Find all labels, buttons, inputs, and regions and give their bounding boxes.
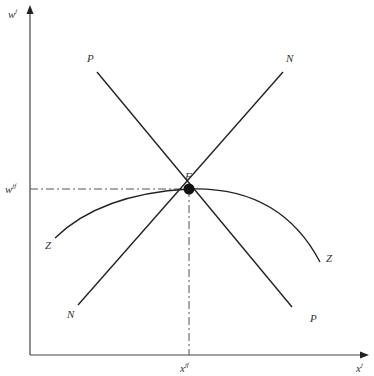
p-label-top: P	[86, 52, 94, 64]
n-curve	[78, 72, 283, 305]
n-label-bottom: N	[66, 308, 75, 320]
z-label-left: Z	[45, 239, 52, 251]
w-jf-label: wjf	[5, 182, 17, 195]
z-label-right: Z	[326, 252, 333, 264]
diagram-canvas: wj xj wjf xjf F P P N N Z Z	[0, 0, 374, 376]
x-axis-label: xj	[355, 361, 363, 374]
x-axis-arrow-icon	[360, 352, 369, 359]
y-axis-arrow-icon	[27, 5, 34, 14]
n-label-top: N	[285, 52, 294, 64]
x-jf-label: xjf	[179, 361, 190, 374]
p-label-bottom: P	[309, 312, 317, 324]
z-curve	[55, 189, 320, 262]
equilibrium-point-f	[184, 184, 195, 195]
f-point-label: F	[184, 170, 192, 182]
y-axis-label: wj	[8, 7, 17, 20]
